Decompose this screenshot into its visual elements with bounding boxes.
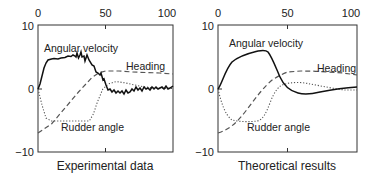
label-heading: Heading: [317, 62, 356, 74]
x-tick-label: 50: [281, 7, 293, 19]
label-rudder-angle: Rudder angle: [61, 121, 124, 133]
x-tick-label: 0: [215, 7, 221, 19]
x-tick-label: 100: [158, 7, 176, 19]
y-tick-label: 0: [28, 83, 34, 95]
chart-canvas: 0 50 100 10 0 −10 Angular velocity Headi…: [0, 0, 380, 181]
label-heading: Heading: [126, 60, 165, 72]
x-tick-label: 0: [35, 7, 41, 19]
label-angular-velocity: Angular velocity: [229, 37, 304, 49]
y-tick-label: 0: [208, 83, 214, 95]
y-tick-label: 10: [22, 20, 34, 32]
y-tick-label: −10: [195, 146, 214, 158]
panel-experimental: 0 50 100 10 0 −10 Angular velocity Headi…: [15, 7, 176, 173]
y-tick-label: −10: [15, 146, 34, 158]
panel-theoretical: 0 50 100 10 0 −10 Angular velocity Headi…: [195, 7, 360, 173]
panel-caption: Theoretical results: [238, 159, 336, 173]
label-rudder-angle: Rudder angle: [247, 121, 310, 133]
x-tick-label: 100: [342, 7, 360, 19]
label-angular-velocity: Angular velocity: [44, 42, 119, 54]
x-tick-label: 50: [99, 7, 111, 19]
panel-caption: Experimental data: [57, 159, 154, 173]
y-tick-label: 10: [202, 20, 214, 32]
